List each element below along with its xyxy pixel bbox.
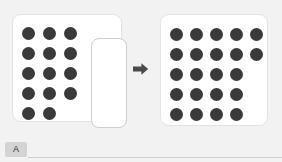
left-grid-dot[interactable] (43, 107, 56, 120)
left-grid-dot[interactable] (43, 47, 56, 60)
right-grid-dot[interactable] (230, 68, 243, 81)
selection-box[interactable] (91, 38, 127, 128)
right-grid-dot[interactable] (170, 48, 183, 61)
left-grid-dot[interactable] (22, 107, 35, 120)
right-grid-dot[interactable] (210, 108, 223, 121)
left-grid-row (22, 83, 85, 103)
right-grid-dot[interactable] (190, 68, 203, 81)
left-grid-row (22, 103, 85, 123)
right-grid-dot[interactable] (230, 88, 243, 101)
right-grid-dot[interactable] (170, 68, 183, 81)
ime-indicator-label: A (13, 145, 19, 154)
right-grid-dot[interactable] (250, 28, 263, 41)
left-grid-dot[interactable] (43, 27, 56, 40)
left-grid-dot[interactable] (22, 67, 35, 80)
right-grid-row (170, 84, 270, 104)
right-grid-dot[interactable] (190, 48, 203, 61)
left-grid-row (22, 23, 85, 43)
left-grid-dot[interactable] (22, 27, 35, 40)
right-grid-dot[interactable] (190, 28, 203, 41)
right-grid-dot[interactable] (210, 68, 223, 81)
right-grid-row (170, 104, 270, 124)
right-grid-dot[interactable] (170, 28, 183, 41)
right-grid-dot[interactable] (230, 28, 243, 41)
right-grid-dot[interactable] (210, 48, 223, 61)
left-grid-dot[interactable] (43, 87, 56, 100)
right-dot-grid (170, 24, 270, 124)
left-grid-row (22, 43, 85, 63)
right-panel-after (160, 14, 268, 126)
right-grid-dot[interactable] (230, 108, 243, 121)
right-grid-dot[interactable] (210, 28, 223, 41)
bottom-divider (28, 157, 282, 158)
right-grid-dot[interactable] (190, 108, 203, 121)
left-grid-dot[interactable] (22, 87, 35, 100)
left-grid-dot[interactable] (22, 47, 35, 60)
right-grid-row (170, 64, 270, 84)
left-grid-dot[interactable] (64, 27, 77, 40)
arrow-right-icon (133, 62, 149, 76)
left-panel-before (12, 14, 122, 122)
left-grid-dot[interactable] (64, 67, 77, 80)
right-grid-dot[interactable] (250, 48, 263, 61)
right-grid-dot[interactable] (170, 88, 183, 101)
left-dot-grid (22, 23, 85, 123)
right-grid-dot[interactable] (230, 48, 243, 61)
right-grid-dot[interactable] (190, 88, 203, 101)
right-grid-row (170, 24, 270, 44)
right-grid-row (170, 44, 270, 64)
ime-indicator-icon[interactable]: A (5, 142, 27, 157)
left-grid-dot[interactable] (43, 67, 56, 80)
right-grid-dot[interactable] (210, 88, 223, 101)
transformation-illustration: A (0, 0, 282, 162)
right-grid-dot[interactable] (170, 108, 183, 121)
bottom-bar: A (0, 138, 282, 162)
left-grid-row (22, 63, 85, 83)
left-grid-dot[interactable] (64, 47, 77, 60)
left-grid-dot[interactable] (64, 87, 77, 100)
